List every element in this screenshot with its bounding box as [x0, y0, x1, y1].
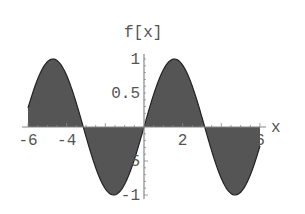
x-axis-label: x	[271, 119, 281, 137]
x-tick-label: -6	[18, 132, 37, 150]
y-tick-label: -0.5	[102, 153, 140, 171]
sine-area-chart: -6-4-2246 10.5-0.5-1 x f[x]	[0, 0, 305, 214]
x-tick-label: 2	[178, 132, 188, 150]
y-tick-label: -1	[121, 187, 140, 205]
y-tick-label: 1	[130, 51, 140, 69]
x-tick-label: -4	[57, 132, 76, 150]
x-tick-label: 6	[255, 132, 265, 150]
y-axis-label: f[x]	[124, 24, 162, 42]
x-tick-label: -2	[96, 132, 115, 150]
x-tick-label: 4	[217, 132, 227, 150]
y-tick-label: 0.5	[111, 85, 140, 103]
